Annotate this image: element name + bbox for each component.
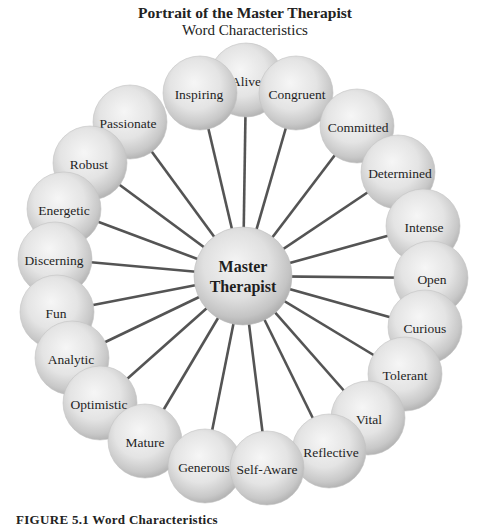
node-label: Open bbox=[417, 272, 446, 287]
node-inspiring: Inspiring bbox=[163, 56, 237, 130]
node-label: Vital bbox=[356, 412, 382, 427]
center-label-line2: Therapist bbox=[210, 278, 277, 296]
node-label: Inspiring bbox=[175, 87, 224, 102]
figure-caption: FIGURE 5.1 Word Characteristics bbox=[16, 512, 218, 524]
node-label: Curious bbox=[404, 321, 447, 336]
node-label: Reflective bbox=[303, 445, 358, 460]
node-label: Discerning bbox=[24, 253, 83, 268]
center-sphere-icon bbox=[194, 227, 292, 325]
center-label-line1: Master bbox=[219, 258, 268, 275]
node-label: Energetic bbox=[38, 203, 89, 218]
node-self-aware: Self-Aware bbox=[230, 431, 304, 505]
node-label: Mature bbox=[126, 435, 165, 450]
node-label: Congruent bbox=[269, 87, 326, 102]
node-label: Analytic bbox=[48, 352, 95, 367]
center-node-master-therapist: MasterTherapist bbox=[194, 227, 292, 325]
node-label: Optimistic bbox=[71, 397, 128, 412]
node-label: Passionate bbox=[100, 116, 157, 131]
node-label: Intense bbox=[405, 220, 444, 235]
word-wheel-diagram: AliveInspiringCongruentCommittedPassiona… bbox=[0, 0, 484, 524]
node-label: Self-Aware bbox=[237, 462, 298, 477]
node-label: Robust bbox=[70, 157, 109, 172]
node-label: Tolerant bbox=[383, 368, 428, 383]
node-label: Determined bbox=[368, 166, 432, 181]
node-label: Fun bbox=[45, 306, 66, 321]
node-label: Committed bbox=[328, 120, 389, 135]
node-label: Generous bbox=[178, 460, 230, 475]
